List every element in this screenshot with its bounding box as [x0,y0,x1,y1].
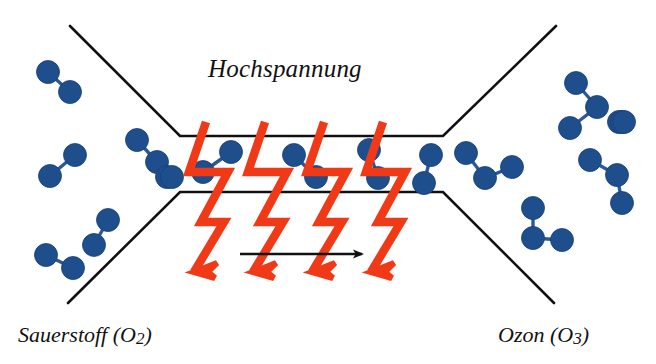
oxygen-atom [39,165,62,188]
o3-molecule [559,72,609,140]
o3-molecule [608,111,636,134]
o2-molecule [35,244,85,280]
oxygen-molecules-inlet [35,61,184,280]
o2-molecule [83,209,120,257]
oxygen-atom [611,192,634,215]
oxygen-atom [126,129,149,152]
oxygen-atom [522,197,545,220]
ozone-label-formula-close: ) [582,322,589,347]
ozone-label-subscript: 3 [573,329,582,348]
o2-molecule [413,144,443,195]
oxygen-label-formula-open: (O [113,322,136,347]
oxygen-atom [586,96,609,119]
o3-molecule [522,197,574,252]
oxygen-atom [420,144,443,167]
oxygen-atom [64,144,87,167]
discharge-zigzag [307,122,346,272]
high-voltage-label: Hochspannung [208,55,362,83]
oxygen-atom [579,149,602,172]
oxygen-atom [522,227,545,250]
oxygen-label: Sauerstoff (O2) [18,322,152,349]
oxygen-atom [455,142,478,165]
oxygen-atom [565,72,588,95]
ozone-label: Ozon (O3) [498,322,589,349]
chamber-bottom-wall [68,192,554,303]
discharge-zigzag [248,122,287,272]
oxygen-atom [613,111,636,134]
oxygen-atom [97,209,120,232]
ozone-label-formula-open: (O [550,322,573,347]
oxygen-atom [606,164,629,187]
oxygen-atom [83,234,106,257]
oxygen-label-subscript: 2 [136,329,145,348]
oxygen-atom [283,144,306,167]
oxygen-atom [474,167,497,190]
oxygen-atom [551,229,574,252]
oxygen-atom [35,244,58,267]
ozone-label-name: Ozon [498,322,544,347]
oxygen-atom [161,166,184,189]
oxygen-atom [220,141,243,164]
oxygen-atom [59,81,82,104]
o2-molecule [156,166,184,189]
oxygen-atom [413,172,436,195]
oxygen-atom [501,156,524,179]
oxygen-atom [559,117,582,140]
discharge-zigzag [366,122,405,272]
o2-molecule [39,144,87,188]
oxygen-atom [62,257,85,280]
o3-molecule [579,149,634,215]
o3-molecule [455,142,524,190]
o2-molecule [37,61,82,104]
lightning-bolt-4 [366,122,405,278]
ozone-generator-diagram: Hochspannung Sauerstoff (O2) Ozon (O3) [0,0,656,364]
oxygen-label-formula-close: ) [145,322,152,347]
oxygen-atom [37,61,60,84]
oxygen-label-name: Sauerstoff [18,322,107,347]
